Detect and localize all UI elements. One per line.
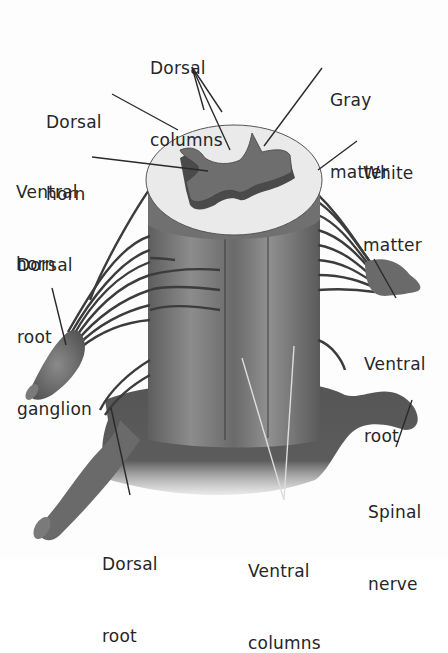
label-dorsal-root-ganglion: Dorsal root ganglion bbox=[17, 205, 92, 469]
label-ventral-columns: Ventral columns bbox=[248, 511, 321, 653]
label-spinal-nerve: Spinal nerve bbox=[368, 452, 421, 644]
label-dorsal-columns: Dorsal columns bbox=[150, 8, 223, 200]
label-dorsal-root: Dorsal root bbox=[102, 504, 158, 653]
label-white-matter: White matter bbox=[363, 113, 422, 305]
